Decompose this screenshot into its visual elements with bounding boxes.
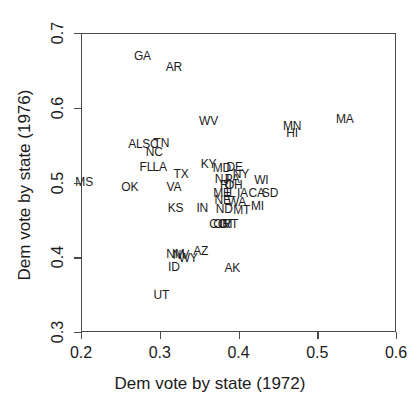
x-tick-label: 0.4	[227, 344, 249, 362]
data-point-label: FL	[140, 161, 154, 173]
y-tick-mark	[74, 257, 81, 258]
data-point-label: LA	[153, 161, 167, 173]
y-tick-label: 0.7	[47, 24, 69, 42]
y-tick-label-text: 0.4	[49, 246, 67, 268]
data-point-label: HI	[286, 127, 298, 139]
x-tick-label: 0.6	[385, 344, 407, 362]
y-tick-label: 0.5	[47, 174, 69, 192]
data-point-label: MT	[233, 204, 250, 216]
y-tick-label-text: 0.7	[49, 22, 67, 44]
data-point-label: VA	[167, 181, 182, 193]
x-tick-mark	[239, 332, 240, 339]
data-point-label: AZ	[193, 245, 208, 257]
y-axis-title: Dem vote by state (1976)	[15, 25, 35, 345]
x-tick-label: 0.3	[149, 344, 171, 362]
data-point-label: MA	[336, 113, 354, 125]
data-point-label: AK	[224, 262, 240, 274]
y-tick-label: 0.3	[47, 323, 69, 341]
x-axis-title: Dem vote by state (1972)	[0, 374, 420, 394]
data-point-label: NC	[146, 146, 163, 158]
x-tick-mark	[317, 332, 318, 339]
y-tick-mark	[74, 332, 81, 333]
data-point-label: IN	[196, 202, 208, 214]
x-tick-label: 0.2	[70, 344, 92, 362]
x-tick-mark	[396, 332, 397, 339]
data-point-label: TX	[174, 168, 189, 180]
data-point-label: KS	[168, 202, 184, 214]
data-point-label: OK	[121, 181, 138, 193]
x-tick-mark	[81, 332, 82, 339]
x-tick-label: 0.5	[306, 344, 328, 362]
plot-area: GAARWVMAMNHIALSCTNNCFLLATXKYMDDENYNJPARI…	[81, 33, 396, 332]
data-point-label: ID	[168, 261, 180, 273]
y-tick-label-text: 0.6	[49, 97, 67, 119]
data-point-label: UT	[154, 289, 170, 301]
data-point-label: WI	[254, 174, 268, 186]
data-point-label: VT	[223, 218, 238, 230]
data-point-label: SD	[262, 187, 278, 199]
y-tick-label-text: 0.3	[49, 321, 67, 343]
y-tick-mark	[74, 33, 81, 34]
y-tick-label-text: 0.5	[49, 171, 67, 193]
data-point-label: AR	[166, 61, 182, 73]
scatter-plot-figure: GAARWVMAMNHIALSCTNNCFLLATXKYMDDENYNJPARI…	[0, 0, 420, 412]
y-tick-label: 0.6	[47, 99, 69, 117]
data-point-label: MI	[251, 200, 264, 212]
y-tick-label: 0.4	[47, 248, 69, 266]
data-point-label: AL	[128, 138, 142, 150]
data-point-label: WV	[199, 115, 218, 127]
data-point-label: ND	[216, 203, 233, 215]
x-tick-mark	[160, 332, 161, 339]
data-point-label: GA	[134, 50, 151, 62]
y-tick-mark	[74, 183, 81, 184]
y-tick-mark	[74, 108, 81, 109]
